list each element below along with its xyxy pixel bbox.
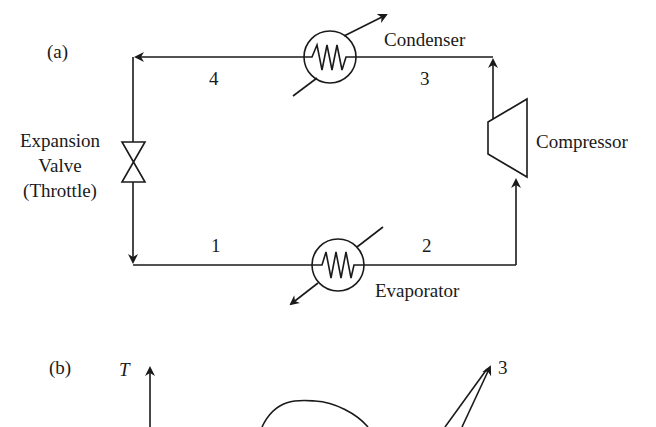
t-axis-label: T — [119, 360, 130, 379]
state-1-label: 1 — [211, 236, 221, 255]
state-4-label: 4 — [209, 69, 219, 88]
panel-b-label: (b) — [49, 358, 71, 377]
expansion-valve-label-line2: Valve — [6, 156, 114, 175]
expansion-valve-icon — [122, 142, 145, 182]
compression-lines — [445, 367, 490, 427]
condenser-icon — [293, 15, 386, 96]
panel-a-label: (a) — [47, 42, 68, 61]
state-3-label: 3 — [420, 69, 430, 88]
expansion-valve-label-line1: Expansion — [6, 131, 114, 150]
vapor-dome-curve — [262, 400, 368, 427]
evaporator-label: Evaporator — [375, 281, 459, 300]
refrigeration-cycle-diagram — [0, 0, 656, 427]
compressor-icon — [488, 60, 527, 177]
condenser-label: Condenser — [384, 30, 465, 49]
expansion-valve-label-line3: (Throttle) — [6, 181, 114, 200]
state-3-label-b: 3 — [498, 358, 508, 377]
compressor-label: Compressor — [536, 132, 628, 151]
evaporator-line — [133, 180, 516, 265]
state-2-label: 2 — [422, 236, 432, 255]
